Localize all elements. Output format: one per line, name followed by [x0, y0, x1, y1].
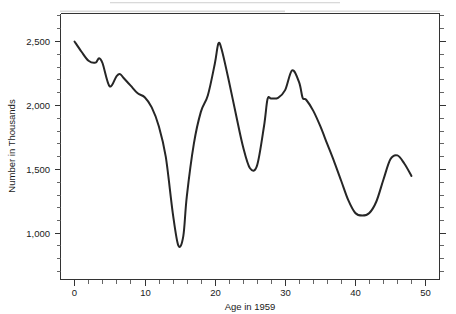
plot-frame — [61, 14, 440, 280]
line-chart: 1,000 1,500 2,000 2,500 0 10 20 30 40 50… — [0, 0, 456, 314]
y-tick-label-2000: 2,000 — [26, 100, 50, 111]
y-axis-title: Number in Thousands — [6, 99, 17, 193]
y-tick-label-1000: 1,000 — [26, 228, 50, 239]
x-tick-label-10: 10 — [140, 287, 151, 298]
right-axis-ticks — [440, 16, 446, 272]
y-axis-ticks-major — [55, 42, 61, 234]
x-tick-label-20: 20 — [210, 287, 221, 298]
y-tick-label-2500: 2,500 — [26, 36, 50, 47]
x-tick-label-0: 0 — [72, 287, 77, 298]
x-tick-label-50: 50 — [420, 287, 431, 298]
x-tick-label-40: 40 — [350, 287, 361, 298]
data-series-line — [75, 42, 412, 247]
x-axis-ticks-major — [75, 280, 426, 286]
x-tick-label-30: 30 — [280, 287, 291, 298]
x-axis-title: Age in 1959 — [225, 301, 276, 312]
scan-artifact — [60, 2, 440, 12]
chart-figure: 1,000 1,500 2,000 2,500 0 10 20 30 40 50… — [0, 0, 456, 314]
y-tick-label-1500: 1,500 — [26, 164, 50, 175]
x-axis-ticks-minor — [89, 280, 412, 284]
